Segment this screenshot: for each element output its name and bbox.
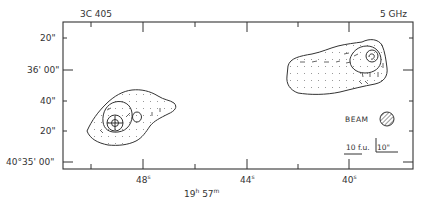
west-lobe-contours xyxy=(287,40,387,95)
beam-indicator xyxy=(380,112,394,126)
east-lobe-contours xyxy=(87,90,176,146)
scale-bars xyxy=(344,138,398,154)
contour-map xyxy=(0,0,429,205)
